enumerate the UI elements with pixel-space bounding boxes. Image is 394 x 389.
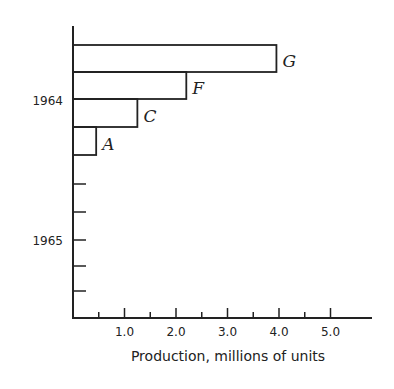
x-tick-label: 3.0 — [218, 325, 237, 339]
bar-G — [73, 45, 276, 72]
bar-label-F: F — [191, 78, 205, 98]
x-tick-label: 1.0 — [115, 325, 134, 339]
y-ticks — [73, 184, 86, 291]
x-tick-label: 5.0 — [321, 325, 340, 339]
bar-label-A: A — [100, 134, 114, 154]
x-tick-label: 2.0 — [166, 325, 185, 339]
production-bar-chart: 1.02.03.04.05.0 GFCA 19641965 Production… — [0, 0, 394, 389]
bar-C — [73, 99, 137, 127]
bar-label-C: C — [143, 106, 156, 126]
bar-A — [73, 127, 96, 155]
y-tick-labels: 19641965 — [32, 94, 63, 248]
x-axis-title: Production, millions of units — [131, 348, 325, 364]
bar-F — [73, 72, 186, 99]
y-tick-label: 1965 — [32, 234, 63, 248]
x-tick-label: 4.0 — [269, 325, 288, 339]
bar-label-G: G — [282, 51, 296, 71]
y-tick-label: 1964 — [32, 94, 63, 108]
bars: GFCA — [73, 45, 296, 155]
x-ticks: 1.02.03.04.05.0 — [99, 308, 340, 339]
